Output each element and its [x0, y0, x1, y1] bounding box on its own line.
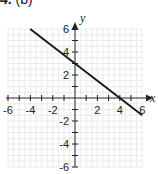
y-axis — [72, 24, 78, 167]
y-tick-label: -2 — [59, 115, 69, 127]
y-axis-arrow-icon — [72, 22, 79, 30]
y-tick-label: -6 — [59, 161, 69, 173]
y-tick-label: 2 — [63, 69, 69, 81]
y-tick-label: 6 — [63, 23, 69, 35]
coordinate-plane: y x -6 -4 -2 2 4 6 6 4 2 -2 -4 -6 — [0, 0, 158, 174]
y-axis-label: y — [79, 11, 86, 25]
x-tick-label: -2 — [48, 104, 58, 116]
x-axis-label: x — [149, 91, 156, 105]
x-tick-label: -6 — [3, 104, 13, 116]
x-tick-label: 4 — [117, 104, 123, 116]
x-tick-label: -4 — [26, 104, 36, 116]
x-tick-label: 2 — [94, 104, 100, 116]
y-tick-label: -4 — [59, 138, 69, 150]
